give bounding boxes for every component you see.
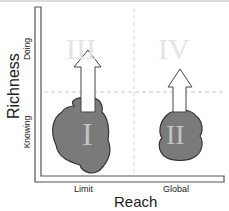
y-tick-knowing: Knowing [22,112,32,152]
quadrant-I-label: I [82,118,93,150]
x-axis-label: Reach [114,193,157,210]
quadrant-III-label: III [66,34,96,64]
arrow-up-icon [168,69,192,112]
x-tick-global: Global [163,184,189,194]
y-tick-doing: Doing [22,34,32,64]
x-tick-limit: Limit [74,184,93,194]
quadrant-II-label: II [166,121,185,149]
y-axis-label: Richness [5,63,23,119]
quadrant-diagram [0,0,229,211]
quadrant-IV-label: IV [158,34,190,64]
